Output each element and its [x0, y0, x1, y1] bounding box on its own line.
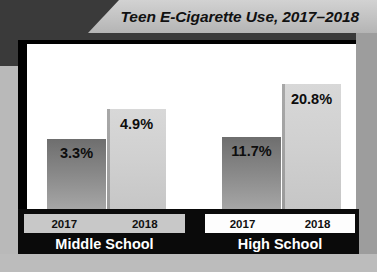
tick-label-hs-2017: 2017: [205, 214, 280, 233]
bar-high-school-2018: 20.8%: [282, 84, 341, 209]
plot-area: 3.3% 4.9% 11.7% 20.8%: [27, 44, 356, 209]
bar-high-school-2017: 11.7%: [222, 137, 281, 209]
bar-value-label: 4.9%: [107, 116, 166, 132]
chart-title: Teen E-Cigarette Use, 2017–2018: [118, 3, 368, 30]
tick-strip-high-school: 2017 2018: [205, 214, 355, 233]
chart-figure: Teen E-Cigarette Use, 2017–2018 3.3% 4.9…: [0, 0, 377, 272]
bar-middle-school-2018: 4.9%: [107, 109, 166, 209]
tick-label-hs-2018: 2018: [280, 214, 355, 233]
bar-value-label: 20.8%: [282, 91, 341, 107]
tick-strip-middle-school: 2017 2018: [24, 214, 185, 233]
tick-label-ms-2018: 2018: [105, 214, 186, 233]
bar-value-label: 3.3%: [47, 145, 106, 161]
group-label-high-school: High School: [205, 234, 355, 254]
bar-value-label: 11.7%: [222, 143, 281, 159]
group-label-middle-school: Middle School: [24, 234, 185, 254]
tick-label-ms-2017: 2017: [24, 214, 105, 233]
background-right-panel: [356, 26, 377, 258]
background-bottom-panel: [0, 254, 377, 272]
bar-middle-school-2017: 3.3%: [47, 139, 106, 209]
